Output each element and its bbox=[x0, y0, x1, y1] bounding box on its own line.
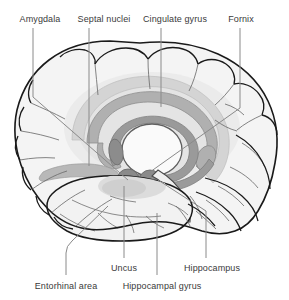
label-cingulate-gyrus: Cingulate gyrus bbox=[143, 14, 207, 24]
label-uncus: Uncus bbox=[111, 263, 137, 273]
thalamus bbox=[122, 124, 182, 176]
label-hippocampus: Hippocampus bbox=[184, 263, 240, 273]
label-septal-nuclei: Septal nuclei bbox=[78, 14, 131, 24]
limbic-system-diagram: Amygdala Septal nuclei Cingulate gyrus F… bbox=[0, 0, 289, 300]
label-hippocampal-gyrus: Hippocampal gyrus bbox=[123, 281, 202, 291]
label-entorhinal-area: Entorhinal area bbox=[35, 281, 98, 291]
label-fornix: Fornix bbox=[228, 14, 254, 24]
label-amygdala: Amygdala bbox=[20, 14, 61, 24]
brain-illustration bbox=[0, 0, 289, 300]
